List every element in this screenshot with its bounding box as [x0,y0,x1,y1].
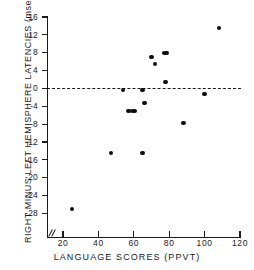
data-point [142,101,146,105]
y-tick--12 [42,141,48,142]
x-ticklabel-20: 20 [48,239,78,248]
x-tick-100 [204,231,205,237]
y-tick--8 [42,124,48,125]
y-ticklabel-4: 4 [33,66,38,75]
y-ticklabel-8: 8 [33,48,38,57]
data-point [163,80,167,84]
y-tick-12 [42,34,48,35]
data-point [217,26,221,30]
data-point [132,109,136,113]
data-point [140,151,144,155]
y-tick--20 [42,177,48,178]
y-tick--16 [42,159,48,160]
y-tick--28 [42,213,48,214]
x-axis-label: LANGUAGE SCORES (PPVT) [0,252,254,262]
y-tick-4 [42,70,48,71]
x-tick-80 [169,231,170,237]
plot-area: 1612840-4-8-12-16-20-24-28 2040608010012… [0,0,254,270]
data-point [121,88,125,92]
scatter-plot-figure: 1612840-4-8-12-16-20-24-28 2040608010012… [0,0,254,270]
y-tick-8 [42,52,48,53]
y-ticklabel-0: 0 [33,84,38,93]
y-tick--24 [42,195,48,196]
y-tick--4 [42,106,48,107]
x-axis-break-icon [49,228,58,238]
y-axis-label: RIGHT MINUS LEFT HEMISPHERE LATENCIES (m… [23,3,33,243]
x-ticklabel-100: 100 [190,239,220,248]
data-point [140,88,144,92]
x-tick-20 [62,231,63,237]
data-point [153,62,157,66]
x-ticklabel-40: 40 [83,239,113,248]
x-ticklabel-80: 80 [154,239,184,248]
x-ticklabel-60: 60 [119,239,149,248]
x-tick-40 [98,231,99,237]
y-axis-line [47,16,48,238]
data-point [70,207,74,211]
data-point [149,55,153,59]
data-point [109,151,113,155]
x-tick-120 [239,231,240,237]
data-point [202,92,206,96]
data-point [164,51,168,55]
x-tick-60 [133,231,134,237]
data-point [181,121,185,125]
y-tick-0 [42,88,48,89]
y-tick-16 [42,16,48,17]
x-ticklabel-120: 120 [225,239,254,248]
